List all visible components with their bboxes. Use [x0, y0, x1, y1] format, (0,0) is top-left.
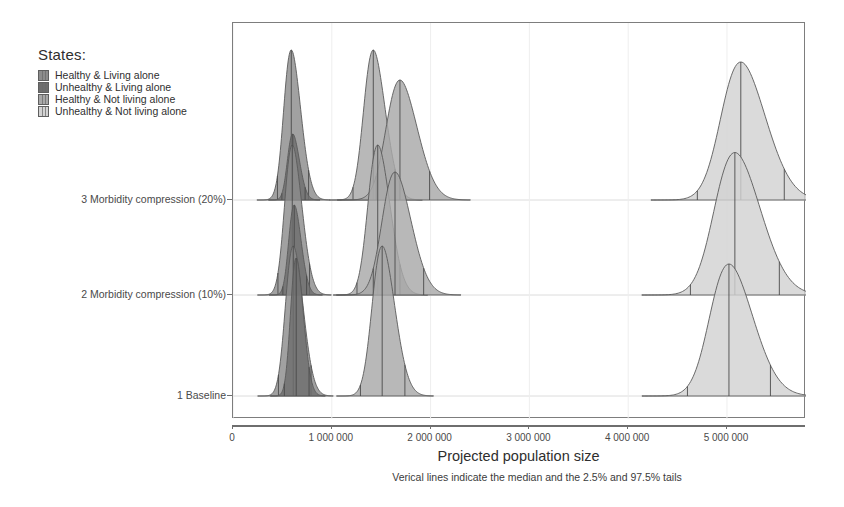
- y-axis: 1 Baseline2 Morbidity compression (10%)3…: [0, 0, 226, 507]
- x-tick-label: 0: [229, 432, 235, 443]
- x-tick-label: 1 000 000: [309, 432, 354, 443]
- x-tick-mark: [726, 425, 727, 429]
- ridgeline-chart: [233, 23, 806, 419]
- x-tick-mark: [528, 425, 529, 429]
- x-tick-label: 5 000 000: [704, 432, 749, 443]
- x-tick-label: 2 000 000: [407, 432, 452, 443]
- x-tick-label: 3 000 000: [506, 432, 551, 443]
- y-tick-mark: [227, 395, 232, 396]
- y-tick-label: 2 Morbidity compression (10%): [81, 288, 226, 300]
- plot-area: [232, 22, 805, 418]
- y-tick-label: 3 Morbidity compression (20%): [81, 193, 226, 205]
- y-tick-mark: [227, 294, 232, 295]
- x-tick-mark: [627, 425, 628, 429]
- chart-caption: Verical lines indicate the median and th…: [232, 471, 842, 483]
- x-tick-mark: [331, 425, 332, 429]
- x-tick-mark: [232, 425, 233, 429]
- x-axis-title: Projected population size: [232, 448, 805, 464]
- y-tick-label: 1 Baseline: [177, 389, 226, 401]
- x-tick-label: 4 000 000: [605, 432, 650, 443]
- x-tick-mark: [430, 425, 431, 429]
- y-tick-mark: [227, 199, 232, 200]
- x-axis-line: [232, 425, 805, 427]
